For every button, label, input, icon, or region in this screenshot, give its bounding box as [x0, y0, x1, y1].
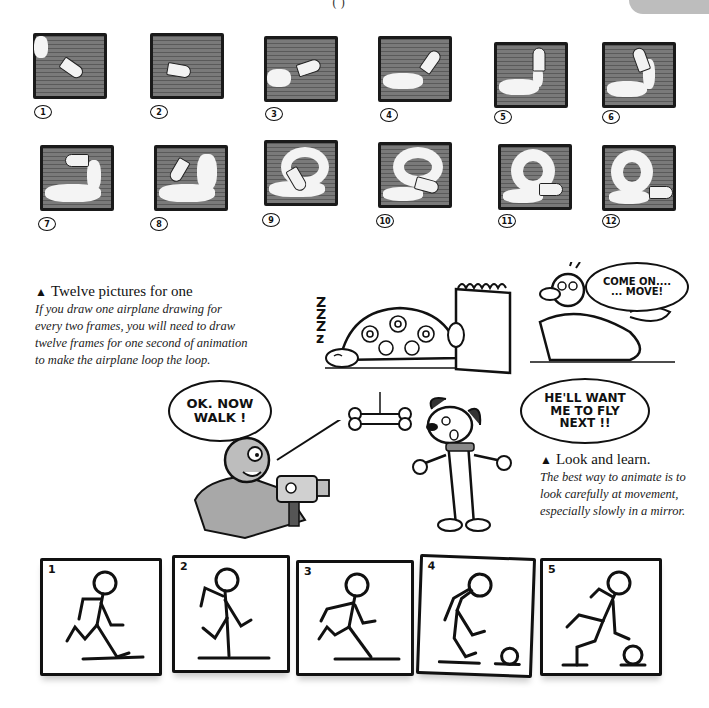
airplane-frame-12 [602, 145, 676, 211]
stick-figure-running-icon [43, 561, 159, 673]
airplane-icon [296, 58, 323, 78]
frame-number-9: 9 [262, 213, 280, 227]
airplane-icon [649, 186, 673, 199]
caption-look-body: The best way to animate is to look caref… [540, 469, 709, 520]
airplane-frame-6 [602, 42, 676, 108]
header-fragment: ( ) [332, 0, 345, 10]
airplane-icon [65, 154, 89, 167]
frame-number-10: 10 [376, 214, 394, 228]
airplane-icon [419, 48, 443, 75]
frame-number-4: 4 [380, 108, 398, 122]
frame-number-7: 7 [38, 217, 56, 231]
airplane-icon [166, 62, 192, 79]
caption-look-title: ▲Look and learn. [540, 450, 709, 469]
frame-number-11: 11 [498, 214, 516, 228]
bone-on-string-icon [345, 392, 415, 442]
stick-frame-3: 3 [296, 560, 414, 676]
stick-frame-5: 5 [540, 558, 662, 676]
airplane-icon [533, 48, 546, 72]
airplane-frame-7 [40, 145, 114, 211]
stick-figure-kicking-icon [543, 561, 659, 673]
page-corner-decoration [629, 0, 709, 14]
caption-look-and-learn: ▲Look and learn. The best way to animate… [540, 450, 709, 520]
airplane-icon [539, 183, 563, 196]
frame-number-12: 12 [602, 214, 620, 228]
airplane-frame-8 [154, 145, 228, 211]
frame-number-3: 3 [265, 107, 283, 121]
airplane-frame-2 [150, 33, 224, 99]
stick-figure-kicking-icon [419, 557, 533, 675]
frame-number-6: 6 [602, 110, 620, 124]
triangle-marker-icon: ▲ [540, 453, 552, 467]
frame-number-8: 8 [150, 217, 168, 231]
stick-frame-1: 1 [40, 558, 162, 676]
frame-number-2: 2 [150, 105, 168, 119]
caption-twelve-pictures: ▲Twelve pictures for one If you draw one… [35, 282, 275, 369]
airplane-frame-1 [33, 33, 107, 99]
airplane-icon [631, 46, 651, 73]
speech-bubble-hell-want-me-to-fly: HE'LL WANT ME TO FLY NEXT !! [520, 378, 650, 444]
airplane-frame-10 [378, 142, 452, 208]
airplane-frame-11 [498, 144, 572, 210]
caption-twelve-body: If you draw one airplane drawing for eve… [35, 301, 275, 369]
stick-figure-running-icon [175, 558, 287, 670]
triangle-marker-icon: ▲ [35, 285, 47, 299]
stick-frame-2: 2 [172, 555, 290, 673]
frame-number-1: 1 [34, 105, 52, 119]
airplane-frame-9 [264, 140, 338, 206]
airplane-frame-4 [378, 36, 452, 102]
airplane-icon [58, 56, 85, 80]
stick-frame-4: 4 [416, 554, 536, 678]
dog-illustration [410, 395, 520, 535]
caption-twelve-title: ▲Twelve pictures for one [35, 282, 275, 301]
airplane-frame-5 [494, 42, 568, 108]
airplane-icon [167, 157, 190, 184]
speech-bubble-come-on: COME ON.... ... MOVE! [585, 262, 689, 312]
stick-figure-running-icon [299, 563, 411, 673]
frame-number-5: 5 [494, 110, 512, 124]
airplane-frame-3 [264, 36, 338, 102]
